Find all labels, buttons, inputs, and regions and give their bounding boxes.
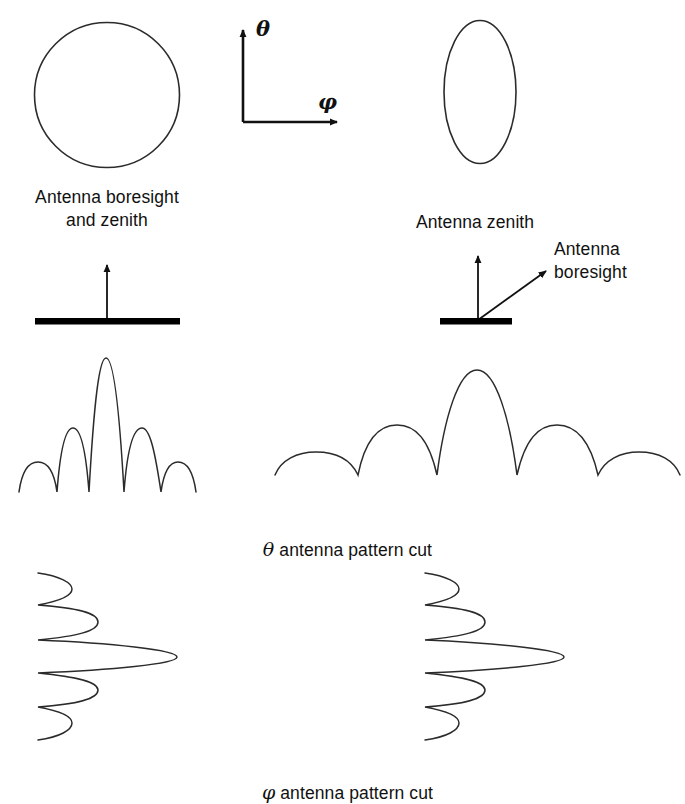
theta-pattern-cut-right-curve — [275, 370, 680, 475]
left-beam-footprint-circle — [35, 23, 180, 168]
phi-pattern-cut-left-curve — [38, 573, 177, 740]
right-aperture-bar — [440, 318, 512, 325]
right-boresight-arrow — [478, 271, 546, 320]
phi-cut-caption: φ antenna pattern cut — [0, 760, 685, 804]
phi-caption-symbol: φ — [262, 781, 275, 803]
phi-caption-text: antenna pattern cut — [275, 783, 433, 803]
phi-axis-label: φ — [318, 89, 337, 114]
theta-axis-label: θ — [256, 16, 270, 41]
right-antenna-assembly — [440, 256, 546, 325]
left-aperture-bar — [35, 318, 180, 325]
right-annotation-zenith: Antenna zenith — [416, 211, 534, 234]
theta-pattern-cut-left-curve — [19, 358, 196, 492]
theta-caption-symbol: θ — [263, 538, 275, 560]
left-annotation-line-1: Antenna boresight — [7, 186, 207, 209]
theta-caption-text: antenna pattern cut — [274, 540, 432, 560]
right-annotation-boresight-line-1: Antenna — [554, 238, 620, 261]
right-annotation-boresight-line-2: boresight — [554, 261, 627, 284]
theta-cut-caption: θ antenna pattern cut — [0, 517, 685, 561]
phi-pattern-cut-right-curve — [425, 573, 564, 740]
left-annotation-line-2: and zenith — [7, 209, 207, 232]
left-antenna-assembly — [35, 265, 180, 325]
right-beam-footprint-ellipse — [444, 21, 516, 164]
